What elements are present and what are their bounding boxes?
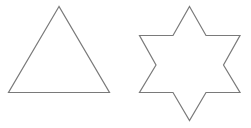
shapes-canvas <box>0 0 251 128</box>
background <box>0 0 251 128</box>
